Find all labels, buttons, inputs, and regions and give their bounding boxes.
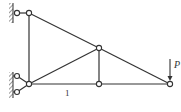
node-B xyxy=(26,81,31,86)
arrow-down-icon xyxy=(168,76,173,81)
pin-icon xyxy=(15,74,20,79)
node-D xyxy=(96,81,101,86)
bottom-wall-support xyxy=(9,72,29,98)
member-CE xyxy=(99,48,170,84)
pin-icon xyxy=(15,90,20,95)
load-label: P xyxy=(173,59,180,70)
load-arrow xyxy=(168,59,173,81)
truss-diagram: P 1 xyxy=(0,0,181,112)
node-C xyxy=(96,45,101,50)
node-E xyxy=(167,81,172,86)
node-A xyxy=(26,10,31,15)
member-AC xyxy=(29,13,99,48)
member-label: 1 xyxy=(65,88,70,98)
hinge-icon xyxy=(14,10,19,15)
member-BC xyxy=(29,48,99,84)
